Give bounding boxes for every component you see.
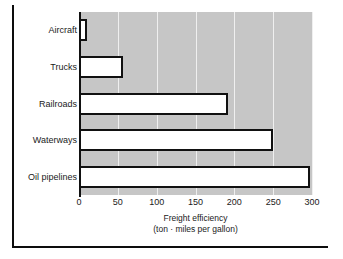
category-label-railroads: Railroads <box>7 99 77 109</box>
x-tick-label-0: 0 <box>59 197 99 208</box>
x-axis-title-units: (ton · miles per gallon) <box>79 224 312 235</box>
bar-trucks <box>79 56 123 78</box>
category-label-trucks: Trucks <box>7 62 77 72</box>
bar-waterways <box>79 129 273 151</box>
x-tick-label-150: 150 <box>176 197 216 208</box>
plot-area <box>79 12 312 195</box>
x-tick-label-50: 50 <box>98 197 138 208</box>
bar-railroads <box>79 93 228 115</box>
bar-oil-pipelines <box>79 166 310 188</box>
y-axis-line <box>79 12 81 197</box>
freight-efficiency-bar-chart: AircraftTrucksRailroadsWaterwaysOil pipe… <box>0 0 343 259</box>
x-axis-title: Freight efficiency (ton · miles per gall… <box>79 213 312 235</box>
x-tick-label-100: 100 <box>137 197 177 208</box>
x-tick-label-250: 250 <box>253 197 293 208</box>
category-label-aircraft: Aircraft <box>7 25 77 35</box>
category-axis-labels: AircraftTrucksRailroadsWaterwaysOil pipe… <box>4 0 77 195</box>
x-axis-title-main: Freight efficiency <box>79 213 312 224</box>
x-tick-label-300: 300 <box>292 197 332 208</box>
gridline-300 <box>312 12 313 195</box>
category-label-oil-pipelines: Oil pipelines <box>7 172 77 182</box>
x-tick-label-200: 200 <box>214 197 254 208</box>
figure-border-bottom <box>12 246 328 248</box>
category-label-waterways: Waterways <box>7 135 77 145</box>
